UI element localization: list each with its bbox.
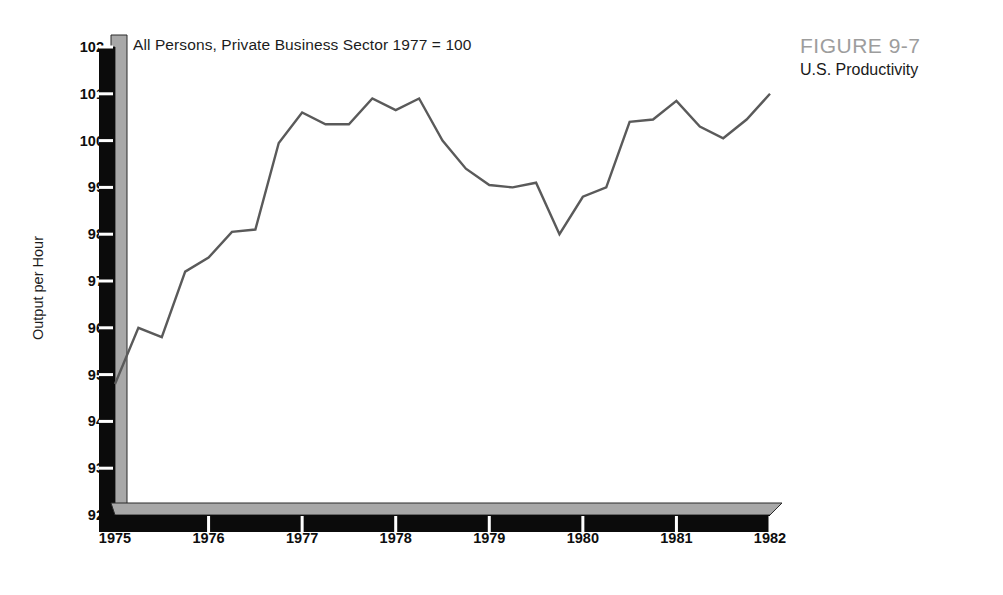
x-axis-tick-notch	[207, 516, 210, 532]
x-axis-tick-notch	[488, 516, 491, 532]
y-axis-tick-notch	[99, 186, 113, 189]
y-axis-tick-notch	[99, 467, 113, 470]
y-axis-tick-notch	[99, 92, 113, 95]
y-axis-tick-notch	[99, 420, 113, 423]
chart-plot-area: All Persons, Private Business Sector 197…	[0, 0, 1003, 595]
x-axis-tick-notch	[581, 516, 584, 532]
x-axis-tick-notch	[301, 516, 304, 532]
y-axis-3d-front-face	[99, 47, 115, 532]
data-series-group	[115, 94, 770, 384]
axis-3d-group	[99, 35, 782, 532]
x-axis-tick-notch	[675, 516, 678, 532]
y-axis-tick-notch	[99, 373, 113, 376]
y-axis-tick-notch	[99, 46, 113, 49]
y-axis-tick-notch	[99, 280, 113, 283]
x-axis-3d-front-face	[99, 515, 770, 532]
chart-canvas	[0, 0, 1003, 595]
y-axis-tick-notch	[99, 233, 113, 236]
x-axis-tick-notch	[394, 516, 397, 532]
y-axis-tick-notch	[99, 326, 113, 329]
y-axis-tick-notch	[99, 139, 113, 142]
data-series-line	[115, 94, 770, 384]
x-axis-tick-notch	[769, 516, 772, 532]
x-axis-3d-top-face	[111, 503, 782, 515]
figure-root: FIGURE 9-7 U.S. Productivity All Persons…	[0, 0, 1003, 595]
